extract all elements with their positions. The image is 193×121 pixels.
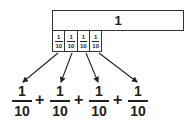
fraction-bar <box>128 100 148 102</box>
arrow-icon <box>99 53 137 82</box>
denominator: 10 <box>126 104 150 118</box>
fraction-bar <box>89 100 109 102</box>
arrow-icon <box>61 53 72 82</box>
fraction-bar <box>50 100 70 102</box>
plus-sign: + <box>35 92 44 108</box>
plus-sign: + <box>113 92 122 108</box>
numerator: 1 <box>48 84 72 98</box>
expression-term: 1 10 <box>126 84 150 118</box>
denominator: 10 <box>48 104 72 118</box>
expression-term: 1 10 <box>48 84 72 118</box>
numerator: 1 <box>126 84 150 98</box>
numerator: 1 <box>10 84 34 98</box>
expression-term: 1 10 <box>87 84 111 118</box>
expression-term: 1 10 <box>10 84 34 118</box>
denominator: 10 <box>10 104 34 118</box>
numerator: 1 <box>87 84 111 98</box>
arrow-icon <box>86 53 98 82</box>
plus-sign: + <box>74 92 83 108</box>
denominator: 10 <box>87 104 111 118</box>
arrow-icon <box>23 53 58 82</box>
fraction-bar <box>12 100 32 102</box>
